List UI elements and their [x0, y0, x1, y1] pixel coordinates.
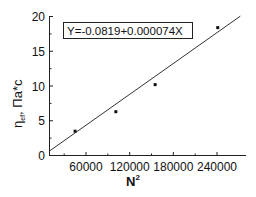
y-axis-label: ηef, Па*с: [10, 79, 26, 128]
x-tick-label: 180000: [153, 160, 193, 174]
x-axis-label: N2: [126, 173, 140, 189]
data-point: [114, 110, 117, 113]
y-tick-label: 10: [32, 80, 46, 94]
y-tick-label: 15: [32, 45, 46, 59]
data-point: [74, 130, 77, 133]
data-points: [74, 26, 220, 133]
x-tick-label: 240000: [197, 160, 237, 174]
chart: 05101520 60000120000180000240000 Y=-0.08…: [0, 0, 256, 197]
y-tick-label: 20: [32, 10, 46, 24]
y-tick-label: 0: [38, 149, 45, 163]
data-point: [154, 83, 157, 86]
data-point: [216, 26, 219, 29]
y-tick-label: 5: [38, 114, 45, 128]
equation-text: Y=-0.0819+0.000074X: [67, 25, 183, 37]
x-tick-label: 60000: [69, 160, 103, 174]
x-tick-label: 120000: [110, 160, 150, 174]
